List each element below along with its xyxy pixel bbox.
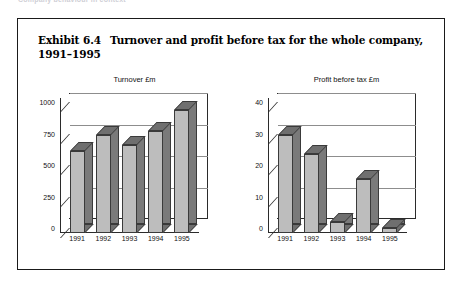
bar-front-face [174,110,189,233]
bar-side-face [162,122,171,224]
exhibit-title: Exhibit 6.4Turnover and profit before ta… [38,34,428,61]
y-tick: 0 [60,228,70,229]
chart-turnover-title: Turnover £m [28,75,223,84]
x-tick-label: 1995 [377,235,403,242]
y-tick-label: 20 [255,162,268,169]
y-tick-label: 0 [259,225,268,232]
y-tick: 10 [268,197,278,198]
bar-1995 [382,228,397,233]
x-tick-label: 1991 [272,235,298,242]
bar-front-face [304,154,319,233]
y-tick-label: 250 [43,193,60,200]
bar-front-face [278,135,293,233]
chart-profit-title: Profit before tax £m [236,75,431,84]
y-tick: 750 [60,134,70,135]
y-tick: 30 [268,134,278,135]
bar-side-face [84,142,93,224]
y-tick: 20 [268,165,278,166]
exhibit-label: Exhibit 6.4 [38,34,101,46]
bar-side-face [292,126,301,224]
y-tick-label: 500 [43,162,60,169]
y-tick: 250 [60,197,70,198]
gridline [70,93,208,94]
bar-side-face [110,126,119,224]
bar-1993 [122,145,137,233]
bar-1992 [96,135,111,233]
exhibit-box: Exhibit 6.4Turnover and profit before ta… [17,18,445,270]
bar-side-face [136,136,145,224]
x-tick-label: 1994 [143,235,169,242]
y-tick-label: 1000 [39,99,60,106]
bar-1994 [148,131,163,233]
y-tick: 1000 [60,102,70,103]
bar-front-face [382,228,397,233]
x-tick-label: 1991 [64,235,90,242]
bar-front-face [356,179,371,233]
x-labels-profit: 19911992199319941995 [268,235,416,247]
bar-front-face [330,222,345,233]
chart-profit: Profit before tax £m 010203040 199119921… [236,75,431,265]
x-tick-label: 1992 [90,235,116,242]
y-tick-label: 750 [43,130,60,137]
chart-turnover: Turnover £m 02505007501000 1991199219931… [28,75,223,265]
bar-1991 [70,151,85,233]
y-tick-label: 30 [255,130,268,137]
bar-1995 [174,110,189,233]
bar-front-face [70,151,85,233]
x-tick-label: 1993 [117,235,143,242]
y-tick: 0 [268,228,278,229]
bar-1993 [330,222,345,233]
gridline [278,93,416,94]
bar-front-face [96,135,111,233]
bars-turnover [60,107,208,233]
bar-1994 [356,179,371,233]
bar-front-face [122,145,137,233]
bar-side-face [370,170,379,224]
y-tick-label: 10 [255,193,268,200]
y-tick-label: 40 [255,99,268,106]
bar-1991 [278,135,293,233]
bar-1992 [304,154,319,233]
bars-profit [268,107,416,233]
x-tick-label: 1993 [325,235,351,242]
x-tick-label: 1992 [298,235,324,242]
bar-side-face [188,101,197,224]
y-tick-label: 0 [51,225,60,232]
chart-turnover-plot: 02505007501000 [60,93,208,233]
running-head: Company behaviour in context [18,0,248,5]
charts-container: Turnover £m 02505007501000 1991199219931… [18,75,444,265]
x-tick-label: 1994 [351,235,377,242]
y-tick: 40 [268,102,278,103]
x-tick-label: 1995 [169,235,195,242]
y-tick: 500 [60,165,70,166]
bar-front-face [148,131,163,233]
x-labels-turnover: 19911992199319941995 [60,235,208,247]
bar-side-face [318,145,327,224]
chart-profit-plot: 010203040 [268,93,416,233]
